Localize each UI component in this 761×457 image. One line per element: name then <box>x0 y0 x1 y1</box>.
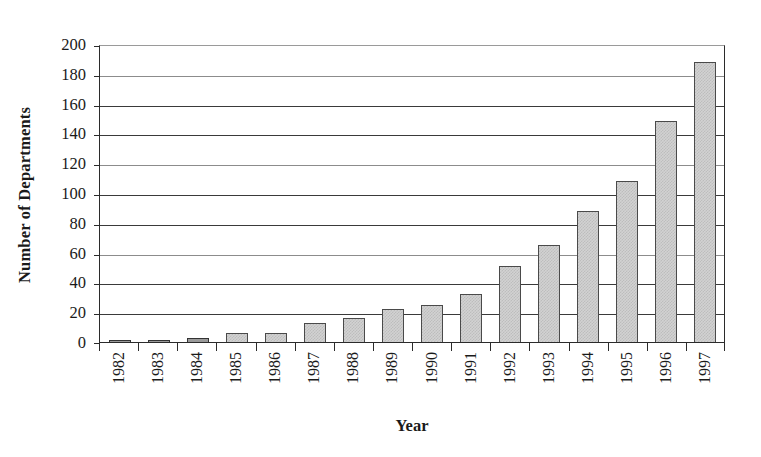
bar-slot <box>178 46 217 342</box>
x-label-slot: 1983 <box>138 352 177 410</box>
x-label-slot: 1991 <box>451 352 490 410</box>
bar-slot <box>568 46 607 342</box>
x-tick-mark <box>686 343 687 351</box>
y-tick-mark <box>94 106 100 107</box>
x-axis-tick-labels: 1982198319841985198619871988198919901991… <box>99 352 725 410</box>
bar-slot <box>451 46 490 342</box>
bar-1993[interactable] <box>538 245 560 342</box>
x-tick-label: 1985 <box>228 352 244 384</box>
x-tick-label: 1988 <box>345 352 361 384</box>
x-label-slot: 1982 <box>99 352 138 410</box>
y-axis-tick-labels: 020406080100120140160180200 <box>44 45 94 343</box>
bar-slot <box>295 46 334 342</box>
y-tick-mark <box>94 255 100 256</box>
x-tick-label: 1983 <box>150 352 166 384</box>
x-tick-mark <box>451 343 452 351</box>
x-tick-mark <box>177 343 178 351</box>
x-label-slot: 1994 <box>569 352 608 410</box>
x-tick-label: 1992 <box>502 352 518 384</box>
x-label-slot: 1986 <box>256 352 295 410</box>
y-tick-label: 160 <box>61 96 86 113</box>
x-tick-mark <box>412 343 413 351</box>
bar-1992[interactable] <box>499 266 521 342</box>
bar-1987[interactable] <box>304 323 326 342</box>
x-label-slot: 1992 <box>490 352 529 410</box>
bar-1985[interactable] <box>226 333 248 342</box>
y-tick-label: 0 <box>78 335 86 352</box>
x-label-slot: 1988 <box>334 352 373 410</box>
x-label-slot: 1987 <box>295 352 334 410</box>
bar-slot <box>607 46 646 342</box>
bar-1984[interactable] <box>187 338 209 342</box>
x-label-slot: 1990 <box>412 352 451 410</box>
y-tick-mark <box>94 284 100 285</box>
y-tick-label: 100 <box>61 186 86 203</box>
bar-1989[interactable] <box>382 309 404 342</box>
bar-1983[interactable] <box>148 340 170 343</box>
x-tick-label: 1994 <box>580 352 596 384</box>
x-tick-mark <box>373 343 374 351</box>
y-tick-label: 60 <box>70 245 87 262</box>
bar-1982[interactable] <box>109 340 131 343</box>
y-tick-label: 180 <box>61 67 86 84</box>
x-label-slot: 1995 <box>608 352 647 410</box>
y-tick-mark <box>94 195 100 196</box>
x-tick-mark <box>334 343 335 351</box>
x-axis-tick-marks <box>99 343 725 351</box>
plot-area <box>99 45 725 343</box>
bar-slot <box>490 46 529 342</box>
bar-1997[interactable] <box>694 62 716 342</box>
bar-slot <box>256 46 295 342</box>
bar-slot <box>100 46 139 342</box>
x-tick-label: 1982 <box>111 352 127 384</box>
x-tick-label: 1991 <box>463 352 479 384</box>
bar-1996[interactable] <box>655 121 677 342</box>
x-label-slot: 1985 <box>216 352 255 410</box>
y-tick-mark <box>94 135 100 136</box>
bar-1990[interactable] <box>421 305 443 342</box>
bar-1994[interactable] <box>577 211 599 342</box>
x-tick-mark <box>569 343 570 351</box>
y-tick-mark <box>94 46 100 47</box>
bar-slot <box>139 46 178 342</box>
x-tick-label: 1989 <box>384 352 400 384</box>
x-tick-mark <box>216 343 217 351</box>
x-tick-mark <box>256 343 257 351</box>
x-tick-label: 1987 <box>306 352 322 384</box>
bar-slot <box>373 46 412 342</box>
x-tick-label: 1995 <box>619 352 635 384</box>
y-tick-mark <box>94 76 100 77</box>
y-tick-mark <box>94 225 100 226</box>
x-axis-title: Year <box>99 416 725 436</box>
x-tick-label: 1993 <box>541 352 557 384</box>
bar-slot <box>217 46 256 342</box>
y-tick-label: 80 <box>70 216 87 233</box>
bar-series <box>100 46 724 342</box>
x-tick-label: 1996 <box>658 352 674 384</box>
x-tick-label: 1990 <box>424 352 440 384</box>
bar-1991[interactable] <box>460 294 482 342</box>
x-label-slot: 1993 <box>529 352 568 410</box>
y-tick-label: 120 <box>61 156 86 173</box>
x-label-slot: 1996 <box>647 352 686 410</box>
x-tick-label: 1986 <box>267 352 283 384</box>
bar-1995[interactable] <box>616 181 638 342</box>
x-tick-mark <box>490 343 491 351</box>
x-tick-mark <box>138 343 139 351</box>
y-tick-label: 140 <box>61 126 86 143</box>
x-label-slot: 1997 <box>686 352 725 410</box>
bar-slot <box>529 46 568 342</box>
bar-chart-figure: Number of Departments 020406080100120140… <box>0 0 761 457</box>
y-tick-label: 20 <box>70 305 87 322</box>
y-tick-label: 40 <box>70 275 87 292</box>
x-tick-mark <box>529 343 530 351</box>
bar-slot <box>412 46 451 342</box>
x-tick-mark <box>647 343 648 351</box>
x-tick-mark <box>608 343 609 351</box>
bar-1988[interactable] <box>343 318 365 342</box>
bar-1986[interactable] <box>265 333 287 342</box>
x-label-slot: 1989 <box>373 352 412 410</box>
x-tick-label: 1997 <box>697 352 713 384</box>
bar-slot <box>685 46 724 342</box>
x-tick-mark <box>99 343 100 351</box>
